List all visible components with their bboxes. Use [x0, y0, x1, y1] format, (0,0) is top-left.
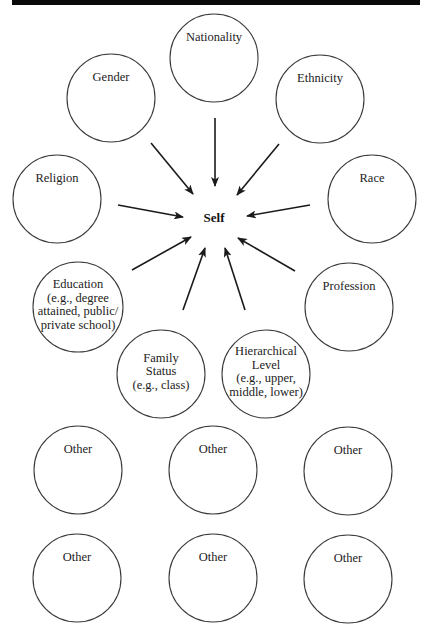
- node-circle-race: [328, 155, 416, 243]
- node-circle-other-6: [304, 535, 392, 623]
- node-circle-hierarchical-level: [222, 330, 310, 418]
- arrow-race-to-self: [247, 205, 310, 216]
- node-circle-family-status: [117, 330, 205, 418]
- node-circle-ethnicity: [276, 55, 364, 143]
- node-circles: [13, 14, 416, 623]
- self-identity-diagram: [0, 0, 422, 631]
- arrow-family-status-to-self: [183, 248, 205, 310]
- arrows: [118, 118, 310, 310]
- node-circle-religion: [13, 155, 101, 243]
- node-circle-other-2: [169, 426, 257, 514]
- node-circle-education: [33, 262, 123, 352]
- arrow-hierarchical-level-to-self: [225, 248, 245, 310]
- arrow-religion-to-self: [118, 205, 183, 217]
- arrow-gender-to-self: [151, 143, 193, 194]
- node-circle-other-5: [169, 534, 257, 622]
- node-circle-other-1: [34, 426, 122, 514]
- arrow-profession-to-self: [238, 238, 295, 271]
- node-circle-other-4: [33, 534, 121, 622]
- node-circle-nationality: [170, 14, 258, 102]
- arrow-ethnicity-to-self: [237, 144, 279, 195]
- node-circle-other-3: [304, 427, 392, 515]
- node-circle-gender: [67, 54, 155, 142]
- arrow-education-to-self: [132, 237, 191, 270]
- node-circle-profession: [305, 263, 393, 351]
